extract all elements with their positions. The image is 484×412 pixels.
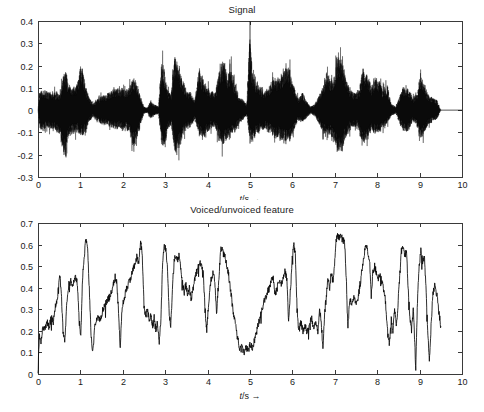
y-tick-label: 0.4 [20, 284, 33, 294]
y-tick-label: -0.1 [17, 128, 33, 138]
x-axis-label: t/s → [239, 391, 260, 401]
x-tick-label: 5 [248, 180, 253, 190]
y-tick-label: 0.1 [20, 84, 33, 94]
x-tick-label: 7 [333, 180, 338, 190]
x-tick-label: 1 [78, 377, 83, 387]
y-tick-label: 0.3 [20, 39, 33, 49]
y-tick-label: -0.3 [17, 173, 33, 183]
x-tick-label: 4 [206, 180, 211, 190]
x-tick-label: 6 [290, 377, 295, 387]
x-tick-label: 3 [163, 377, 168, 387]
y-tick-label: 0.3 [20, 305, 33, 315]
y-tick-label: -0.2 [17, 151, 33, 161]
x-tick-label: 1 [78, 180, 83, 190]
feature-plot: 01234567891000.10.20.30.40.50.60.7t/s → [0, 200, 484, 412]
y-tick-label: 0.2 [20, 327, 33, 337]
y-tick-label: 0 [28, 106, 33, 116]
x-tick-label: 10 [457, 180, 467, 190]
x-tick-label: 9 [418, 377, 423, 387]
signal-plot: 012345678910-0.3-0.2-0.100.10.20.30.4t/s… [0, 0, 484, 200]
x-tick-label: 4 [206, 377, 211, 387]
signal-waveform [38, 40, 441, 161]
y-tick-label: 0.6 [20, 241, 33, 251]
x-tick-label: 2 [121, 377, 126, 387]
y-tick-label: 0.2 [20, 62, 33, 72]
y-tick-label: 0.4 [20, 17, 33, 27]
x-tick-label: 0 [36, 180, 41, 190]
x-tick-label: 10 [457, 377, 467, 387]
feature-panel: Voiced/unvoiced feature 01234567891000.1… [0, 200, 484, 412]
x-tick-label: 6 [290, 180, 295, 190]
x-tick-label: 7 [333, 377, 338, 387]
feature-contour [38, 233, 441, 373]
signal-panel: Signal 012345678910-0.3-0.2-0.100.10.20.… [0, 0, 484, 200]
y-tick-label: 0 [28, 370, 33, 380]
x-tick-label: 0 [36, 377, 41, 387]
x-tick-label: 2 [121, 180, 126, 190]
figure-container: Signal 012345678910-0.3-0.2-0.100.10.20.… [0, 0, 484, 412]
y-tick-label: 0.5 [20, 262, 33, 272]
y-tick-label: 0.7 [20, 219, 33, 229]
y-tick-label: 0.1 [20, 348, 33, 358]
x-tick-label: 9 [418, 180, 423, 190]
x-tick-label: 8 [375, 377, 380, 387]
x-tick-label: 3 [163, 180, 168, 190]
x-tick-label: 8 [375, 180, 380, 190]
x-tick-label: 5 [248, 377, 253, 387]
